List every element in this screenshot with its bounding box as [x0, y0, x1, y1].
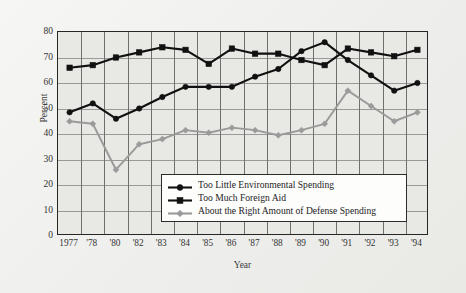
series-2: [67, 45, 420, 71]
data-point: [136, 106, 141, 111]
data-point: [252, 74, 257, 79]
data-point: [90, 62, 95, 67]
data-point: [392, 54, 397, 59]
data-point: [229, 84, 234, 89]
chart-legend: Too Little Environmental SpendingToo Muc…: [161, 174, 407, 222]
x-axis-tick-labels: 1977'78'80'82'83'84'85'86'87'88'89'90'91…: [57, 238, 428, 254]
data-point: [183, 47, 188, 52]
data-point: [229, 46, 234, 51]
y-axis-tick-labels: 80706050403020100: [12, 31, 53, 235]
series-line: [70, 42, 418, 119]
y-axis-tick-label: 60: [15, 77, 53, 87]
y-axis-tick-label: 40: [15, 128, 53, 138]
legend-label: Too Much Foreign Aid: [198, 192, 286, 203]
legend-item: Too Little Environmental Spending: [167, 178, 401, 191]
series-line: [70, 91, 418, 170]
legend-item: Too Much Foreign Aid: [167, 191, 401, 204]
data-point: [322, 62, 327, 67]
data-point: [276, 51, 281, 56]
data-point: [113, 55, 118, 60]
x-axis-tick-label: '94: [396, 238, 436, 248]
data-point: [298, 127, 304, 133]
y-axis-tick-label: 80: [15, 26, 53, 36]
data-point: [90, 101, 95, 106]
data-point: [206, 84, 211, 89]
data-point: [160, 45, 165, 50]
line-chart: Percent 80706050403020100 1977'78'80'82'…: [0, 0, 466, 293]
legend-marker-diamond-icon: [167, 205, 193, 216]
data-point: [252, 51, 257, 56]
data-point: [345, 46, 350, 51]
data-point: [67, 65, 72, 70]
data-point: [392, 88, 397, 93]
data-point: [206, 61, 211, 66]
legend-marker-circle-icon: [167, 179, 193, 190]
data-point: [160, 94, 165, 99]
data-point: [229, 125, 235, 131]
series-3: [67, 88, 421, 173]
data-point: [415, 80, 420, 85]
data-point: [368, 50, 373, 55]
data-point: [113, 116, 118, 121]
legend-item: About the Right Amount of Defense Spendi…: [167, 204, 401, 217]
data-point: [368, 73, 373, 78]
y-axis-tick-label: 20: [15, 179, 53, 189]
data-point: [136, 50, 141, 55]
data-point: [414, 109, 420, 115]
data-point: [345, 57, 350, 62]
data-point: [206, 130, 212, 136]
legend-label: About the Right Amount of Defense Spendi…: [198, 205, 376, 216]
x-axis-title: Year: [57, 260, 428, 270]
data-point: [275, 132, 281, 138]
y-axis-tick-label: 70: [15, 52, 53, 62]
data-point: [67, 110, 72, 115]
legend-marker-square-icon: [167, 192, 193, 203]
data-point: [252, 127, 258, 133]
y-axis-tick-label: 50: [15, 103, 53, 113]
data-point: [415, 47, 420, 52]
data-point: [299, 57, 304, 62]
figure-page: Percent 80706050403020100 1977'78'80'82'…: [0, 0, 466, 293]
legend-label: Too Little Environmental Spending: [198, 179, 334, 190]
y-axis-tick-label: 30: [15, 154, 53, 164]
data-point: [299, 48, 304, 53]
y-axis-tick-label: 0: [15, 230, 53, 240]
data-point: [183, 84, 188, 89]
data-point: [159, 136, 165, 142]
y-axis-tick-label: 10: [15, 205, 53, 215]
data-point: [67, 118, 73, 124]
series-line: [70, 47, 418, 67]
data-point: [183, 127, 189, 133]
data-point: [276, 66, 281, 71]
data-point: [322, 40, 327, 45]
